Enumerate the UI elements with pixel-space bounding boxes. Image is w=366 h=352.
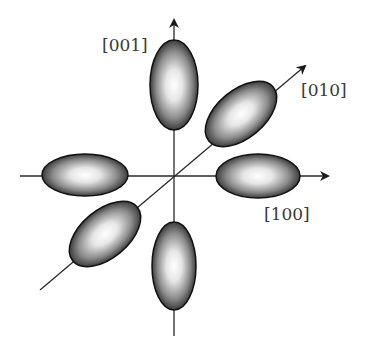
lobe-top bbox=[150, 40, 198, 130]
label-010: [010] bbox=[301, 80, 347, 100]
label-100: [100] bbox=[264, 204, 310, 224]
diagram-svg: [001] [010] [100] bbox=[0, 0, 366, 352]
lobe-upper-right bbox=[193, 69, 288, 160]
lobe-bottom bbox=[152, 222, 196, 310]
lobe-lower-left bbox=[57, 189, 152, 280]
orbital-diagram: [001] [010] [100] bbox=[0, 0, 366, 352]
label-001: [001] bbox=[102, 35, 148, 55]
lobe-right bbox=[216, 154, 300, 198]
lobe-left bbox=[42, 154, 128, 196]
